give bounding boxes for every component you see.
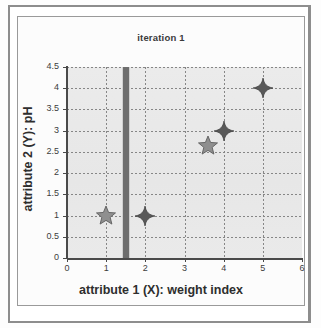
x-axis-tick xyxy=(302,258,303,262)
centroid-star-marker xyxy=(96,206,116,226)
data-point-diamond-marker xyxy=(253,78,273,98)
y-axis-title: attribute 2 (Y): pH xyxy=(21,59,35,259)
y-axis-tick xyxy=(63,131,67,132)
data-point-diamond-marker xyxy=(135,206,155,226)
chart-title: iteration 1 xyxy=(17,32,305,43)
gridline-vertical xyxy=(145,67,146,258)
split-line-bar xyxy=(123,67,129,258)
y-axis-line xyxy=(66,66,68,259)
x-axis-tick xyxy=(106,258,107,262)
gridline-vertical xyxy=(106,67,107,258)
y-axis-tick xyxy=(63,109,67,110)
y-axis-tick xyxy=(63,258,67,259)
x-axis-tick-label: 1 xyxy=(96,263,116,273)
gridline-vertical xyxy=(185,67,186,258)
y-axis-tick xyxy=(63,88,67,89)
centroid-star-marker xyxy=(198,136,218,156)
chart-figure: iteration 1 012345600.511.522.533.544.5 … xyxy=(0,0,321,328)
y-axis-tick xyxy=(63,216,67,217)
y-axis-tick xyxy=(63,237,67,238)
plot-area xyxy=(67,67,302,258)
x-axis-tick-label: 6 xyxy=(292,263,312,273)
x-axis-tick-label: 3 xyxy=(175,263,195,273)
x-axis-tick xyxy=(145,258,146,262)
x-axis-tick-label: 4 xyxy=(214,263,234,273)
y-axis-tick xyxy=(63,194,67,195)
gridline-vertical xyxy=(224,67,225,258)
x-axis-tick xyxy=(67,258,68,262)
x-axis-tick xyxy=(185,258,186,262)
x-axis-tick-label: 2 xyxy=(135,263,155,273)
y-axis-tick xyxy=(63,173,67,174)
x-axis-tick xyxy=(224,258,225,262)
y-axis-tick xyxy=(63,152,67,153)
x-axis-tick xyxy=(263,258,264,262)
x-axis-title: attribute 1 (X): weight index xyxy=(17,283,305,297)
y-axis-tick xyxy=(63,67,67,68)
x-axis-tick-label: 5 xyxy=(253,263,273,273)
x-axis-tick-label: 0 xyxy=(57,263,77,273)
